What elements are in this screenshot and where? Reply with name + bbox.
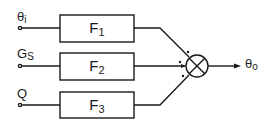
plus-sign-f3 [182,75,184,77]
arrow-f2-icon [181,64,186,68]
plus-sign-f2 [179,61,181,63]
input-label-theta-i: θi [17,10,26,25]
connector-f3-junction [134,75,189,105]
output-arrow-icon [234,64,241,69]
input-label-q: Q [17,87,27,102]
output-label-theta-o: θo [245,57,258,72]
plus-sign-f1 [187,51,189,53]
block-diagram-canvas [0,0,275,129]
connector-f1-junction [134,28,189,57]
block-label-f1: F1 [60,20,134,38]
block-label-f3: F3 [60,97,134,115]
input-label-gs: GS [17,47,34,62]
block-label-f2: F2 [60,58,134,76]
